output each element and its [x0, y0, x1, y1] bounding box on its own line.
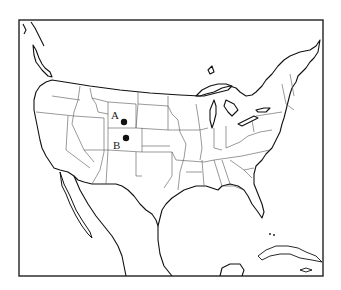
marker-label-b: B	[113, 139, 120, 151]
keys-islet	[273, 234, 275, 236]
map-frame	[19, 20, 323, 276]
marker-dot-a	[121, 119, 127, 125]
keys-islet	[269, 233, 271, 235]
us-map: A B	[0, 0, 341, 290]
marker-dot-b	[123, 135, 129, 141]
marker-label-a: A	[111, 109, 119, 121]
